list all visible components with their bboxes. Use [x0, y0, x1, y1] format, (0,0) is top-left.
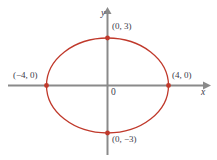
point-marker-bottom: [105, 131, 110, 136]
y-axis-label: y: [101, 9, 105, 19]
plot-canvas: [0, 0, 217, 160]
point-marker-right: [166, 83, 171, 88]
point-label-top: (0, 3): [112, 22, 132, 31]
point-label-left: (−4, 0): [13, 71, 38, 80]
ellipse-graph-figure: y x 0 (0, 3) (0, −3) (−4, 0) (4, 0): [0, 0, 217, 160]
point-marker-top: [105, 36, 110, 41]
origin-label: 0: [111, 88, 116, 98]
point-label-right: (4, 0): [172, 71, 192, 80]
x-axis-label: x: [201, 88, 205, 98]
point-marker-left: [44, 83, 49, 88]
point-label-bottom: (0, −3): [112, 135, 137, 144]
